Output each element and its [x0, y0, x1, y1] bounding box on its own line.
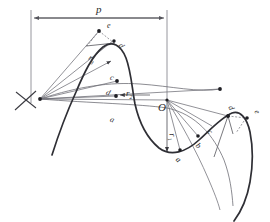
figure-root: p O e d r3 c d r2 a r1 a b c d e: [0, 0, 270, 222]
dot-right-end: [218, 87, 222, 91]
lower-spoke-group: [214, 116, 233, 157]
dashed-e-drop: [236, 118, 246, 133]
dashed-edge-right: [99, 31, 114, 43]
spoke-O-to-c: [167, 100, 212, 126]
dot-d-lower: [226, 114, 230, 118]
ray-baseline-O: [40, 99, 167, 100]
construction-arc-crossing: [167, 100, 220, 210]
spoke-O-to-d: [167, 100, 228, 116]
pitch-label-p: p: [96, 4, 102, 15]
figure-drawing-canvas: [0, 0, 270, 222]
point-label-e-upper: e: [107, 22, 111, 30]
construction-arc-lower: [40, 99, 233, 206]
dot-d-upper: [112, 39, 115, 42]
radius-label-r2-sub: 2: [130, 94, 133, 100]
dot-left: [38, 97, 42, 101]
lower-spoke-1: [228, 116, 233, 134]
center-label-O: O: [158, 102, 166, 113]
radius-label-r2: r2: [126, 89, 132, 101]
dot-a-lower: [178, 148, 182, 152]
lower-spoke-2: [214, 116, 228, 157]
dot-c-upper: [115, 79, 119, 83]
dot-e-lower: [245, 116, 249, 120]
datum-lines: [31, 10, 167, 103]
dot-d-mid: [114, 94, 118, 98]
cross-origin-marker: [15, 91, 36, 110]
dot-e-upper: [97, 29, 101, 33]
dot-b-lower: [196, 134, 200, 138]
